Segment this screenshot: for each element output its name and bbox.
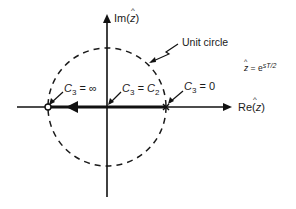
label-c3-zero: C3 = 0	[184, 80, 215, 95]
label-c3-equals-c2: C3 = C2	[122, 82, 160, 97]
label-c3-infinity: C3 = ∞	[64, 82, 97, 97]
imaginary-hat: ^	[131, 6, 135, 15]
real-axis-label: Re(z)	[238, 101, 265, 113]
real-hat: ^	[253, 95, 257, 104]
z-plane-diagram: Im(z) ^ Re(z) ^ Unit circle z = esT/2 ^ …	[0, 0, 296, 209]
equation: z = esT/2	[243, 62, 276, 73]
unit-circle-label: Unit circle	[182, 36, 228, 48]
real-axis-arrow-icon	[223, 103, 232, 111]
imaginary-axis-label: Im(z)	[114, 12, 139, 24]
open-circle-marker-icon	[45, 104, 51, 110]
imaginary-axis-arrow-icon	[103, 14, 111, 23]
locus-direction-arrow-icon	[66, 101, 78, 113]
